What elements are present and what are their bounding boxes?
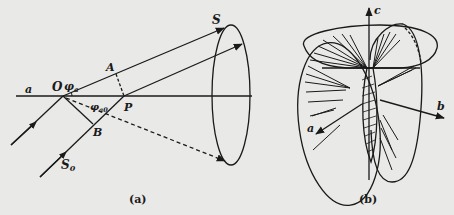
path-difference-OB bbox=[63, 96, 93, 124]
panel-b bbox=[288, 8, 444, 211]
label-scattered-S: S bbox=[212, 13, 221, 27]
diffraction-figure: a O φa φa0 A B P S S0 (a) bbox=[0, 0, 454, 215]
caption-b: (b) bbox=[359, 193, 377, 206]
label-point-A: A bbox=[105, 61, 115, 74]
path-difference-AP bbox=[116, 74, 124, 96]
lower-left-rays bbox=[310, 110, 340, 150]
caption-a: (a) bbox=[129, 193, 147, 206]
axis-b-line bbox=[380, 100, 444, 118]
label-incident-S0: S0 bbox=[61, 158, 76, 173]
incident-ray-upper-arrow bbox=[11, 124, 34, 145]
right-lobe-rays bbox=[373, 32, 416, 170]
cone-ellipse bbox=[212, 25, 250, 165]
axis-a-line-b bbox=[316, 104, 362, 134]
label-point-P: P bbox=[123, 101, 133, 114]
label-axis-a: a bbox=[25, 83, 32, 96]
left-lobe-rays bbox=[305, 34, 367, 116]
label-axis-b: b bbox=[437, 100, 445, 113]
label-origin-O: O bbox=[52, 80, 63, 94]
label-axis-c: c bbox=[374, 4, 381, 17]
scattered-ray-lower bbox=[124, 44, 242, 96]
right-lobe-ellipse bbox=[370, 24, 422, 182]
figure-canvas: a O φa φa0 A B P S S0 (a) bbox=[0, 0, 454, 215]
label-axis-a-b: a bbox=[307, 122, 314, 135]
label-angle-phi-a0: φa0 bbox=[90, 101, 108, 114]
label-angle-phi-a: φa bbox=[64, 80, 79, 94]
label-point-B: B bbox=[92, 126, 102, 139]
